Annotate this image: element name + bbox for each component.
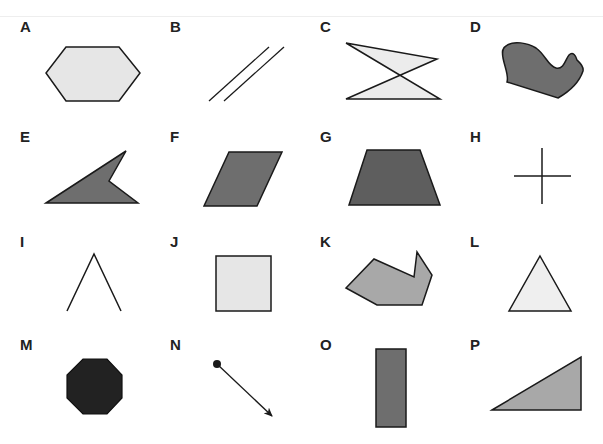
octagon-shape-m	[67, 359, 122, 414]
bowtie-shape-c	[346, 43, 440, 99]
triangle-shape-l	[509, 256, 571, 311]
shapes-figure	[0, 0, 603, 444]
parallel-lines-shape-b	[209, 47, 284, 101]
angle-shape-i	[67, 254, 121, 311]
right-triangle-shape-p	[492, 357, 581, 410]
rectangle-shape-o	[376, 349, 406, 427]
parallelogram-shape-f	[204, 152, 282, 206]
irregular-shape-d	[502, 43, 583, 98]
concave-heptagon-shape-k	[346, 252, 432, 305]
intersecting-lines-shape-h	[514, 148, 571, 204]
concave-quadrilateral-shape-e	[46, 151, 138, 203]
ray-shape-n	[213, 360, 272, 416]
square-shape-j	[216, 256, 271, 311]
trapezoid-shape-g	[349, 150, 440, 205]
hexagon-shape-a	[46, 47, 140, 101]
